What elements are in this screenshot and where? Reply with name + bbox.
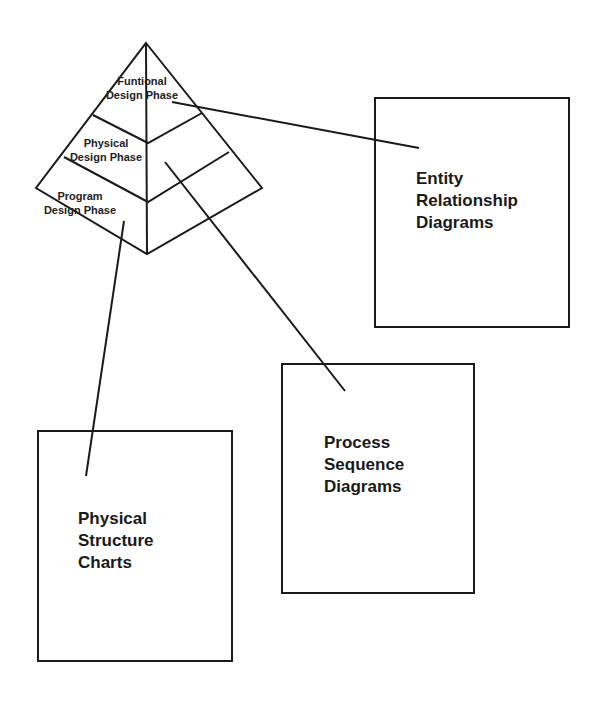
physical-structure-label: Physical Structure Charts: [78, 508, 154, 574]
process-sequence-label: Process Sequence Diagrams: [324, 432, 404, 498]
phase-label-physical: Physical Design Phase: [46, 136, 166, 164]
connector-process: [165, 162, 345, 391]
phase-label-functional: Funtional Design Phase: [82, 74, 202, 102]
phase-label-program: Program Design Phase: [25, 189, 135, 217]
entity-relationship-label: Entity Relationship Diagrams: [416, 168, 518, 234]
